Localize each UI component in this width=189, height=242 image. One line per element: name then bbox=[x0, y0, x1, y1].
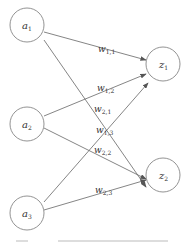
weight-w21: w2,1 bbox=[94, 104, 111, 115]
weight-w23: w2,3 bbox=[95, 185, 112, 196]
neural-network-diagram: a1 a2 a3 z1 z2 w1,1 w1,2 w2,1 w1,3 w2,2 … bbox=[0, 0, 189, 242]
weight-w12: w1,2 bbox=[97, 83, 114, 94]
edge-a1-z1 bbox=[44, 32, 146, 60]
weight-w13: w1,3 bbox=[96, 125, 113, 136]
weight-w11: w1,1 bbox=[98, 44, 115, 55]
nodes bbox=[10, 8, 180, 230]
weight-w22: w2,2 bbox=[94, 145, 111, 156]
edges bbox=[44, 32, 148, 210]
